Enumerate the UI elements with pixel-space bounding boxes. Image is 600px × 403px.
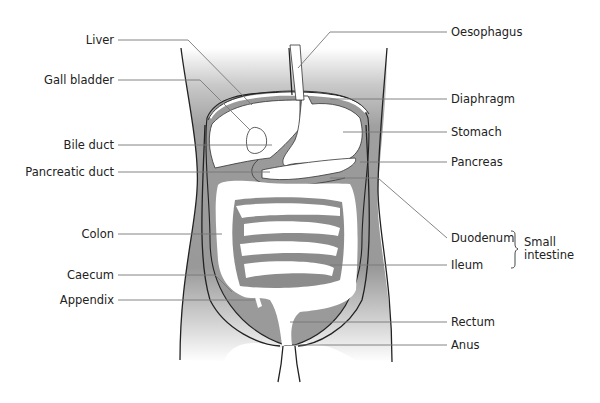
digestive-system-diagram: Liver Gall bladder Bile duct Pancreatic … — [0, 0, 600, 403]
label-anus: Anus — [451, 338, 479, 352]
label-caecum: Caecum — [67, 268, 114, 282]
leg-outline-left — [278, 346, 283, 382]
label-appendix: Appendix — [60, 293, 114, 307]
label-diaphragm: Diaphragm — [451, 92, 515, 106]
label-rectum: Rectum — [451, 315, 495, 329]
label-stomach: Stomach — [451, 125, 502, 139]
label-colon: Colon — [81, 227, 114, 241]
gall-bladder-shape — [246, 127, 266, 153]
label-small-intestine-line2: intestine — [524, 248, 574, 262]
label-oesophagus: Oesophagus — [451, 25, 522, 39]
label-small-intestine-line1: Small — [524, 235, 556, 249]
label-gall-bladder: Gall bladder — [44, 73, 114, 87]
label-duodenum: Duodenum — [451, 231, 514, 245]
label-pancreatic-duct: Pancreatic duct — [25, 165, 114, 179]
label-ileum: Ileum — [451, 258, 483, 272]
label-pancreas: Pancreas — [451, 155, 503, 169]
label-liver: Liver — [86, 33, 114, 47]
leg-outline-right — [295, 346, 300, 382]
label-bile-duct: Bile duct — [64, 138, 115, 152]
